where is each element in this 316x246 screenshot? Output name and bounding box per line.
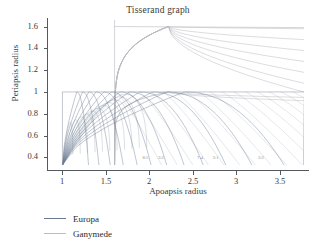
- x-tick-mark-4: [236, 171, 237, 175]
- y-tick-mark-3: [44, 92, 48, 93]
- x-tick-label: 2.5: [178, 176, 208, 186]
- legend: EuropaGanymede: [44, 211, 112, 241]
- resonance-label: 7:4: [197, 155, 203, 160]
- tisserand-curve: [175, 92, 240, 165]
- legend-item-europa[interactable]: Europa: [44, 211, 112, 226]
- y-tick-label: 1: [12, 86, 38, 96]
- legend-label: Ganymede: [73, 229, 112, 239]
- resonance-label: 3:2: [258, 155, 264, 160]
- x-axis-title: Apoapsis radius: [52, 186, 304, 196]
- tisserand-curve: [257, 92, 304, 165]
- resonance-label: 3:2: [158, 155, 164, 160]
- tisserand-curve: [62, 97, 139, 165]
- tisserand-graph-figure: Tisserand graph Periapsis radius 0.40.60…: [0, 0, 316, 246]
- y-tick-mark-6: [44, 27, 48, 28]
- legend-item-ganymede[interactable]: Ganymede: [44, 226, 112, 241]
- y-tick-label: 0.4: [12, 151, 38, 161]
- legend-label: Europa: [73, 214, 99, 224]
- tisserand-curve: [245, 92, 304, 165]
- legend-swatch-europa-icon: [44, 218, 66, 219]
- x-tick-label: 3.5: [265, 176, 295, 186]
- legend-swatch-ganymede-icon: [44, 233, 66, 234]
- y-tick-label: 0.6: [12, 130, 38, 140]
- y-tick-mark-2: [44, 114, 48, 115]
- x-tick-mark-0: [62, 171, 63, 175]
- tisserand-curve: [234, 92, 304, 165]
- tisserand-curve: [269, 92, 304, 165]
- x-tick-mark-5: [280, 171, 281, 175]
- y-tick-mark-0: [44, 157, 48, 158]
- chart-title: Tisserand graph: [0, 5, 316, 15]
- plot-canvas: [52, 20, 304, 165]
- y-tick-mark-5: [44, 48, 48, 49]
- y-tick-mark-1: [44, 136, 48, 137]
- x-tick-mark-1: [106, 171, 107, 175]
- y-axis-line: [47, 18, 48, 170]
- y-tick-label: 1.4: [12, 42, 38, 52]
- y-tick-label: 1.6: [12, 21, 38, 31]
- x-tick-mark-3: [193, 171, 194, 175]
- x-tick-label: 2: [134, 176, 164, 186]
- x-tick-label: 3: [221, 176, 251, 186]
- x-axis-line: [47, 170, 309, 171]
- x-tick-label: 1: [47, 176, 77, 186]
- y-tick-mark-4: [44, 70, 48, 71]
- resonance-label: 2:1: [213, 155, 219, 160]
- x-tick-mark-2: [149, 171, 150, 175]
- x-tick-label: 1.5: [91, 176, 121, 186]
- y-tick-label: 1.2: [12, 64, 38, 74]
- resonance-label: 8:5: [142, 155, 148, 160]
- y-tick-label: 0.8: [12, 108, 38, 118]
- tisserand-curve: [62, 92, 284, 165]
- series-europa: [62, 92, 304, 165]
- plot-area: [52, 20, 304, 165]
- tisserand-curve: [281, 92, 304, 165]
- series-ganymede: [115, 20, 304, 165]
